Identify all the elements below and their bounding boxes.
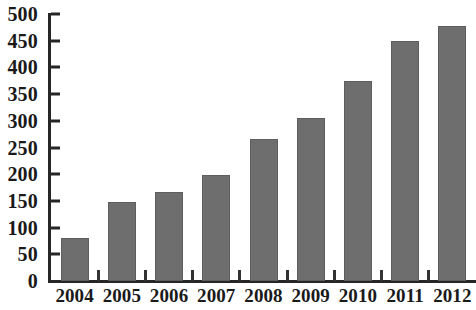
bar (297, 118, 325, 281)
x-tick-label: 2008 (244, 285, 282, 307)
bar (202, 175, 230, 281)
bar (391, 41, 419, 281)
x-tick-label: 2012 (433, 285, 471, 307)
x-tick-label: 2005 (103, 285, 141, 307)
bar-chart: 500 450 400 350 300 250 200 150 100 50 0… (0, 0, 476, 310)
x-axis-tick-labels: 200420052006200720082009201020112012 (0, 285, 476, 310)
bar (61, 238, 89, 281)
x-tick-label: 2007 (197, 285, 235, 307)
x-tick-label: 2004 (55, 285, 93, 307)
bar (438, 26, 466, 281)
x-tick-label: 2006 (150, 285, 188, 307)
bar (155, 192, 183, 281)
bar (250, 139, 278, 281)
bar (344, 81, 372, 281)
x-tick-label: 2011 (386, 285, 423, 307)
x-tick-label: 2010 (339, 285, 377, 307)
bar (108, 202, 136, 281)
plot-area (0, 0, 476, 310)
x-tick-label: 2009 (292, 285, 330, 307)
